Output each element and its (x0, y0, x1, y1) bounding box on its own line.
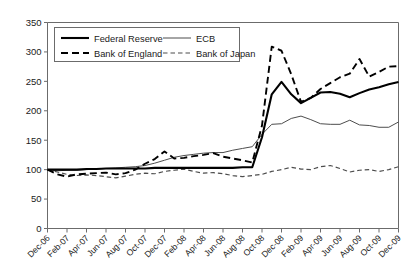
x-tick-label: Dec-09 (376, 233, 403, 260)
x-tick-label: Aug-08 (220, 233, 247, 260)
line-chart: 050100150200250300350 Dec-06Feb-07Apr-07… (0, 0, 415, 272)
y-tick-label: 300 (26, 46, 42, 57)
legend-label-bank-of-england: Bank of England (94, 49, 162, 59)
y-tick-label: 350 (26, 17, 42, 28)
y-tick-label: 0 (36, 223, 41, 234)
legend-label-bank-of-japan: Bank of Japan (196, 49, 255, 59)
x-axis-tick-marks (48, 229, 399, 233)
x-tick-label: Feb-07 (45, 233, 71, 259)
chart-container: 050100150200250300350 Dec-06Feb-07Apr-07… (0, 0, 415, 272)
x-tick-label: Aug-09 (337, 233, 364, 260)
series-line-bank-of-england (48, 47, 399, 177)
series-line-ecb (48, 116, 399, 171)
y-tick-label: 150 (26, 135, 42, 146)
y-tick-label: 50 (31, 193, 42, 204)
y-axis-tick-labels: 050100150200250300350 (26, 17, 42, 234)
legend: Federal Reserve ECB Bank of England Bank… (55, 28, 256, 62)
x-tick-label: Feb-08 (162, 233, 188, 259)
y-tick-label: 200 (26, 105, 42, 116)
series-line-federal-reserve (48, 82, 399, 170)
y-axis-tick-marks (44, 23, 48, 229)
y-tick-label: 100 (26, 164, 42, 175)
y-tick-label: 250 (26, 76, 42, 87)
legend-label-federal-reserve: Federal Reserve (94, 34, 163, 44)
x-tick-label: Feb-09 (279, 233, 305, 259)
legend-label-ecb: ECB (196, 34, 215, 44)
x-tick-label: Aug-07 (103, 233, 130, 260)
x-axis-tick-labels: Dec-06Feb-07Apr-07Jun-07Aug-07Oct-07Dec-… (25, 233, 403, 260)
